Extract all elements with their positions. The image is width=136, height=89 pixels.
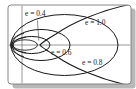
label-e-0-8: e = 0.8: [82, 58, 103, 67]
label-e-0-4: e = 0.4: [25, 9, 46, 18]
label-e-0-6: e = 0.6: [51, 48, 72, 57]
conic-sections-figure: e = 0.4 e = 1.0 e = 0.6 e = 0.8: [0, 0, 136, 89]
label-e-1-0: e = 1.0: [85, 18, 106, 27]
